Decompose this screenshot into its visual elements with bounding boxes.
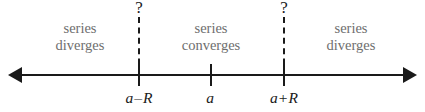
point-label-operator — [214, 89, 216, 106]
point-label-term: R — [143, 89, 152, 106]
region-label-line-1: series — [25, 20, 135, 37]
boundary-dashed-line-right — [283, 17, 285, 75]
question-mark-right: ? — [274, 0, 294, 18]
region-label-line-1: series — [156, 20, 266, 37]
region-label-line-2: diverges — [296, 37, 406, 54]
point-label-a-plus-R: a+R — [249, 88, 319, 107]
point-label-base: a — [270, 89, 278, 106]
point-label-base: a — [206, 89, 214, 106]
left-arrow-icon — [8, 67, 22, 83]
number-line-figure: ? ? series diverges series converges ser… — [0, 0, 425, 112]
point-label-a-minus-R: a–R — [104, 88, 174, 107]
region-label-line-1: series — [296, 20, 406, 37]
question-mark-left: ? — [129, 0, 149, 18]
point-label-a: a — [190, 88, 232, 107]
region-label-left-diverges: series diverges — [25, 20, 135, 54]
point-label-operator: – — [133, 89, 143, 106]
point-label-operator: + — [278, 89, 289, 106]
boundary-dashed-line-left — [138, 17, 140, 75]
region-label-center-converges: series converges — [156, 20, 266, 54]
region-label-right-diverges: series diverges — [296, 20, 406, 54]
right-arrow-icon — [403, 67, 417, 83]
region-label-line-2: converges — [156, 37, 266, 54]
number-line-axis — [18, 74, 407, 76]
tick-a — [210, 64, 212, 86]
point-label-term: R — [289, 89, 298, 106]
region-label-line-2: diverges — [25, 37, 135, 54]
